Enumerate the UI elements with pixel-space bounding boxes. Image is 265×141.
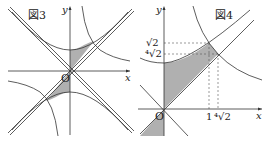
fig4-origin-label: O (155, 111, 164, 122)
fig4-xtick-1: 1 (206, 112, 212, 122)
fig4-xtick-4rt2: ⁴√2 (214, 112, 231, 122)
fig4-ytick-4rt2: ⁴√2 (145, 49, 162, 59)
fig3-y-label: y (62, 5, 68, 15)
fig4-shaded-region (164, 43, 218, 109)
fig4-title: 図4 (215, 10, 233, 21)
fig4-ytick-sqrt2: √2 (146, 38, 159, 48)
fig3-y-arrow (69, 6, 72, 10)
fig4-y-label: y (156, 5, 162, 15)
figure-canvas: 図3 y x O 図4 y x O √2 ⁴√2 1 ⁴√2 (0, 0, 265, 141)
fig4-y-arrow (163, 6, 166, 10)
fig3-title: 図3 (28, 10, 46, 21)
fig4-x-label: x (256, 111, 262, 121)
fig3-shaded-region-upper (70, 41, 94, 71)
figure-3-graph (8, 6, 134, 136)
fig3-x-label: x (125, 73, 131, 83)
fig3-origin-label: O (61, 73, 70, 84)
